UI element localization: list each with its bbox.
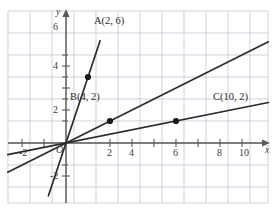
x-axis-name: x	[265, 146, 269, 156]
x-tick-label-4: 4	[129, 148, 134, 158]
point-b-label: B(4, 2)	[70, 92, 100, 103]
y-axis-arrow	[62, 9, 69, 17]
x-tick-label-10: 10	[239, 148, 249, 158]
x-tick-label-8: 8	[217, 148, 222, 158]
origin-label: O	[56, 145, 63, 155]
x-tick-label-6: 6	[173, 148, 178, 158]
x-tick-label-2: 2	[107, 148, 112, 158]
point-c-marker	[173, 118, 179, 124]
x-tick-label-neg2: -2	[19, 148, 27, 158]
y-tick-label-6: 6	[53, 22, 58, 32]
line-through-c	[8, 103, 269, 155]
coordinate-plane-svg	[0, 0, 277, 209]
y-tick-label-4: 4	[53, 61, 58, 71]
point-b-marker	[107, 118, 113, 124]
point-c-label: C(10, 2)	[213, 92, 248, 103]
line-through-b	[8, 42, 269, 172]
y-tick-label-2: 2	[53, 105, 58, 115]
y-tick-label-neg2: -2	[50, 171, 58, 181]
point-a-marker	[85, 74, 91, 80]
graph-figure: A(2, 6) B(4, 2) C(10, 2) y x O 6 4 2 -2 …	[0, 0, 277, 209]
point-a-label: A(2, 6)	[94, 16, 124, 27]
y-axis-name: y	[56, 8, 60, 18]
